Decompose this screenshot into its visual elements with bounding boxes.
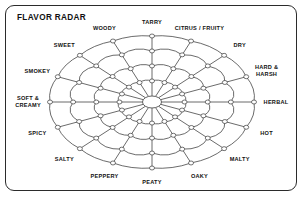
radar-node[interactable] [77,120,82,124]
axis-label-spicy: SPICY [28,129,46,136]
axis-label-salty: SALTY [55,155,74,162]
radar-node[interactable] [173,85,178,89]
radar-node[interactable] [205,100,210,104]
radar-node[interactable] [205,64,210,68]
radar-node[interactable] [77,53,82,57]
radar-node[interactable] [171,133,176,137]
radar-node[interactable] [189,39,194,43]
axis-label-hard-harsh: HARD & HARSH [255,65,278,79]
radar-center-hub [143,96,162,108]
radar-node[interactable] [126,85,131,89]
radar-node[interactable] [189,75,194,79]
radar-node[interactable] [180,53,185,57]
axis-label-hot: HOT [260,129,273,136]
axis-label-citrus-fruity: CITRUS / FRUITY [175,25,224,32]
radar-node[interactable] [180,92,185,96]
radar-node[interactable] [201,86,206,90]
axis-label-smokey: SMOKEY [25,68,51,75]
radar-node[interactable] [150,49,155,53]
axis-label-tarry: TARRY [142,19,162,26]
radar-web-svg [6,6,298,192]
radar-node[interactable] [222,53,227,57]
radar-node[interactable] [173,115,178,119]
radar-node[interactable] [77,147,82,151]
radar-node[interactable] [128,133,133,137]
radar-node[interactable] [150,34,155,38]
radar-node[interactable] [150,121,155,125]
radar-node[interactable] [162,81,167,85]
radar-node[interactable] [94,100,99,104]
radar-node[interactable] [110,161,115,165]
radar-node[interactable] [71,100,76,104]
radar-node[interactable] [189,125,194,129]
radar-node[interactable] [98,114,103,118]
axis-label-dry: DRY [234,42,246,49]
radar-node[interactable] [117,100,122,104]
flavor-radar-card: FLAVOR RADAR TARRYCITRUS / FRUITYDRYHARD… [5,5,297,191]
radar-node[interactable] [110,75,115,79]
radar-node[interactable] [126,115,131,119]
radar-node[interactable] [77,80,82,84]
radar-node[interactable] [94,64,99,68]
radar-node[interactable] [119,147,124,151]
radar-node[interactable] [252,100,257,104]
radar-node[interactable] [171,67,176,71]
axis-label-peppery: PEPPERY [91,172,119,179]
radar-node[interactable] [244,75,249,79]
radar-node[interactable] [244,125,249,129]
axis-label-woody: WOODY [93,25,116,32]
axis-label-peaty: PEATY [142,179,161,186]
radar-node[interactable] [119,108,124,112]
radar-node[interactable] [201,114,206,118]
radar-node[interactable] [94,136,99,140]
radar-node[interactable] [98,86,103,90]
radar-node[interactable] [228,100,233,104]
radar-node[interactable] [162,119,167,123]
radar-node[interactable] [48,100,53,104]
radar-node[interactable] [150,79,155,83]
radar-node[interactable] [180,108,185,112]
axis-label-herbal: HERBAL [264,99,289,106]
radar-node[interactable] [150,136,155,140]
radar-node[interactable] [182,100,187,104]
axis-label-malty: MALTY [230,155,250,162]
radar-node[interactable] [55,75,60,79]
radar-node[interactable] [150,166,155,170]
radar-node[interactable] [137,81,142,85]
radar-node[interactable] [119,53,124,57]
radar-chart: TARRYCITRUS / FRUITYDRYHARD & HARSHHERBA… [6,6,298,192]
axis-label-sweet: SWEET [54,42,75,49]
radar-node[interactable] [180,147,185,151]
axis-label-soft-creamy: SOFT & CREAMY [15,95,41,109]
radar-node[interactable] [222,120,227,124]
axis-label-oaky: OAKY [191,172,208,179]
radar-node[interactable] [119,92,124,96]
radar-node[interactable] [150,151,155,155]
radar-node[interactable] [189,161,194,165]
radar-node[interactable] [222,80,227,84]
radar-node[interactable] [55,125,60,129]
radar-node[interactable] [128,67,133,71]
radar-node[interactable] [137,119,142,123]
radar-node[interactable] [205,136,210,140]
radar-node[interactable] [110,125,115,129]
radar-node[interactable] [110,39,115,43]
radar-node[interactable] [150,64,155,68]
radar-node[interactable] [222,147,227,151]
